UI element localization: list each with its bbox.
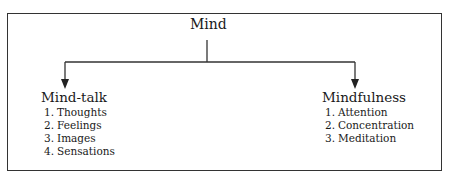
list-item: 2.Concentration — [325, 119, 414, 132]
list-item: 1.Thoughts — [44, 106, 115, 119]
item-label: Meditation — [338, 132, 396, 144]
item-number: 1. — [44, 106, 57, 119]
item-label: Thoughts — [57, 106, 107, 118]
list-item: 1.Attention — [325, 106, 414, 119]
item-number: 2. — [325, 119, 338, 132]
item-number: 2. — [44, 119, 57, 132]
item-label: Attention — [338, 106, 387, 118]
item-label: Images — [57, 132, 96, 144]
item-number: 3. — [44, 132, 57, 145]
list-item: 3.Meditation — [325, 132, 414, 145]
list-item: 3.Images — [44, 132, 115, 145]
item-number: 3. — [325, 132, 338, 145]
item-number: 1. — [325, 106, 338, 119]
list-item: 4.Sensations — [44, 145, 115, 158]
item-label: Sensations — [57, 145, 115, 157]
item-number: 4. — [44, 145, 57, 158]
item-label: Concentration — [338, 119, 414, 131]
branch-mind-talk: Mind-talk 1.Thoughts 2.Feelings 3.Images… — [41, 89, 115, 158]
item-label: Feelings — [57, 119, 102, 131]
branch-mindfulness: Mindfulness 1.Attention 2.Concentration … — [322, 89, 414, 145]
branch-item-list: 1.Attention 2.Concentration 3.Meditation — [322, 106, 414, 145]
branch-item-list: 1.Thoughts 2.Feelings 3.Images 4.Sensati… — [41, 106, 115, 158]
root-node-label: Mind — [190, 16, 227, 32]
branch-title: Mind-talk — [41, 89, 115, 105]
branch-title: Mindfulness — [322, 89, 414, 105]
left-arrowhead-icon — [61, 79, 69, 89]
list-item: 2.Feelings — [44, 119, 115, 132]
right-arrowhead-icon — [351, 79, 359, 89]
